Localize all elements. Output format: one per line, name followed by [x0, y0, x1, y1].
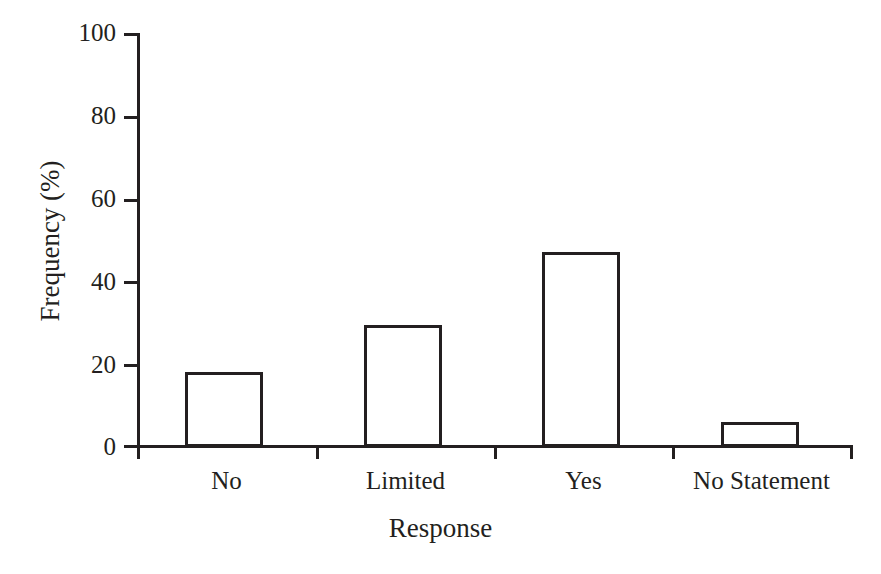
y-axis-title: Frequency (%) — [34, 96, 66, 386]
y-tick-mark — [124, 445, 138, 448]
x-category-label-yes: Yes — [494, 466, 673, 496]
x-tick-mark — [137, 445, 140, 459]
y-tick-mark — [124, 281, 138, 284]
y-tick-label: 0 — [56, 434, 116, 459]
x-tick-mark — [316, 445, 319, 459]
bar-limited[interactable] — [364, 325, 442, 447]
y-tick-label: 20 — [56, 352, 116, 377]
x-category-label-no: No — [137, 466, 316, 496]
y-tick-label: 60 — [56, 186, 116, 211]
y-tick-mark — [124, 33, 138, 36]
y-tick-label: 40 — [56, 269, 116, 294]
bar-no-statement[interactable] — [721, 422, 799, 447]
y-tick-mark — [124, 364, 138, 367]
x-tick-mark — [850, 445, 853, 459]
x-axis-title: Response — [0, 512, 881, 544]
x-category-label-no-statement: No Statement — [672, 466, 851, 496]
y-tick-mark — [124, 199, 138, 202]
y-axis-line — [137, 33, 140, 449]
y-tick-label: 80 — [56, 103, 116, 128]
bar-yes[interactable] — [542, 252, 620, 447]
bar-chart-figure: Frequency (%) 100 80 60 40 20 0 No Limit… — [0, 0, 881, 574]
x-tick-mark — [672, 445, 675, 459]
x-category-label-limited: Limited — [316, 466, 495, 496]
bar-no[interactable] — [185, 372, 263, 447]
y-tick-label: 100 — [56, 20, 116, 45]
y-tick-mark — [124, 116, 138, 119]
x-tick-mark — [494, 445, 497, 459]
